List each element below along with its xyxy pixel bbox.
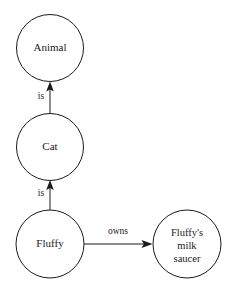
node-fluffy[interactable]: Fluffy <box>16 210 84 278</box>
node-label-saucer-line2: milk <box>177 240 197 251</box>
edge-label-owns-fluffy-saucer: owns <box>108 226 128 236</box>
node-animal[interactable]: Animal <box>17 15 84 82</box>
node-label-saucer-line1: Fluffy's <box>171 227 203 238</box>
edge-cat-is-animal[interactable]: is <box>38 82 54 114</box>
node-label-cat: Cat <box>42 140 57 152</box>
node-label-saucer-line3: saucer <box>174 253 201 264</box>
node-cat[interactable]: Cat <box>17 114 84 181</box>
diagram-canvas: is is owns Animal Cat Fluffy <box>0 0 233 287</box>
edge-label-is-cat-animal: is <box>38 91 45 101</box>
edge-fluffy-is-cat[interactable]: is <box>38 180 54 211</box>
semantic-network-diagram: is is owns Animal Cat Fluffy <box>0 0 233 287</box>
edge-label-is-fluffy-cat: is <box>38 188 45 198</box>
node-label-animal: Animal <box>34 41 67 53</box>
edge-fluffy-owns-saucer[interactable]: owns <box>84 226 153 248</box>
node-fluffys-milk-saucer[interactable]: Fluffy's milk saucer <box>153 210 221 278</box>
node-label-fluffy: Fluffy <box>36 237 64 249</box>
